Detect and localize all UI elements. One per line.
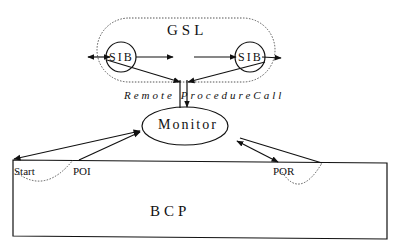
- monitor-label: Monitor: [158, 117, 218, 133]
- poi-label: POI: [73, 165, 91, 177]
- rpc-label: Remote ProcedureCall: [124, 89, 284, 101]
- sib-right-label: SIB: [238, 50, 263, 65]
- gsl-label: GSL: [167, 22, 207, 39]
- bcp-box: [13, 160, 387, 239]
- poi-to-monitor-arrow: [79, 132, 140, 160]
- por-return-line: [240, 138, 322, 163]
- sib-left-label: SIB: [109, 50, 134, 65]
- por-label: POR: [273, 165, 294, 177]
- start-label: Start: [14, 165, 35, 177]
- monitor-to-por-arrow: [237, 141, 278, 162]
- gsl-bcp-diagram: GSL SIB SIB Remote ProcedureCall Monitor…: [0, 0, 401, 248]
- bcp-label: BCP: [150, 203, 190, 220]
- monitor-to-start-arrow: [14, 131, 140, 159]
